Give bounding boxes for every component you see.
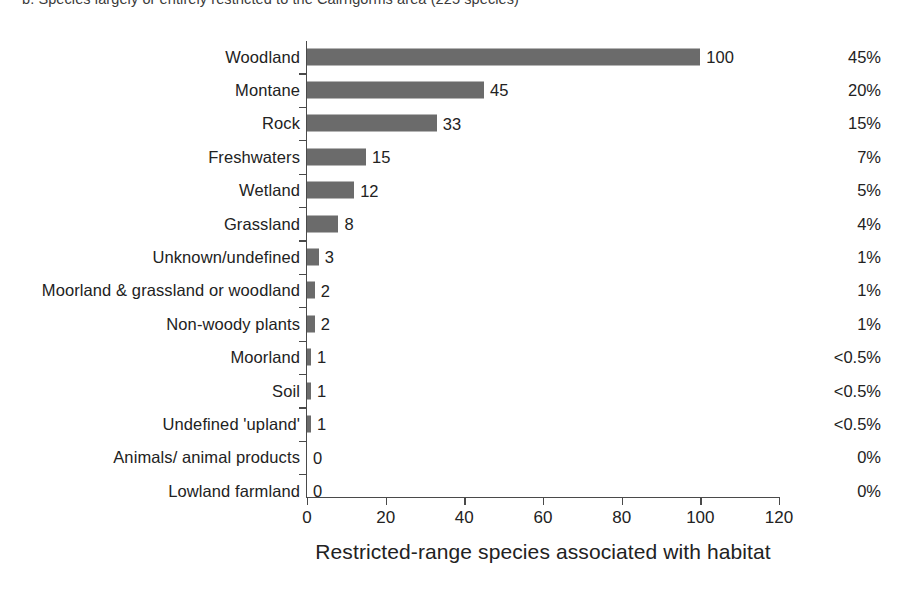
horizontal-bar-chart: Woodland10045%Montane4520%Rock3315%Fresh… — [0, 0, 902, 600]
y-axis-tick — [299, 140, 306, 141]
percent-label: 45% — [0, 47, 881, 66]
chart-bar-row: Freshwaters157% — [0, 140, 902, 173]
y-axis-tick — [299, 441, 306, 442]
y-axis-line — [306, 41, 307, 498]
chart-bar-row: Moorland1<0.5% — [0, 341, 902, 374]
chart-bar-row: Soil1<0.5% — [0, 374, 902, 407]
percent-label: 1% — [0, 281, 881, 300]
y-axis-tick — [299, 174, 306, 175]
y-axis-tick — [299, 240, 306, 241]
y-axis-tick — [299, 474, 306, 475]
chart-bar-row: Woodland10045% — [0, 40, 902, 73]
percent-label: 4% — [0, 214, 881, 233]
x-axis-tick-label: 40 — [455, 508, 474, 528]
percent-label: 0% — [0, 448, 881, 467]
y-axis-tick — [299, 107, 306, 108]
y-axis-tick — [299, 374, 306, 375]
y-axis-tick — [299, 274, 306, 275]
chart-bar-row: Non-woody plants21% — [0, 307, 902, 340]
x-axis-tick-label: 60 — [534, 508, 553, 528]
x-axis-title: Restricted-range species associated with… — [306, 540, 780, 564]
y-axis-tick — [299, 73, 306, 74]
chart-bar-row: Lowland farmland00% — [0, 474, 902, 507]
x-axis-tick — [386, 498, 387, 505]
x-axis-tick — [543, 498, 544, 505]
percent-label: <0.5% — [0, 414, 881, 433]
x-axis-tick-label: 100 — [686, 508, 714, 528]
x-axis-tick — [464, 498, 465, 505]
x-axis-tick — [622, 498, 623, 505]
x-axis-tick-label: 20 — [376, 508, 395, 528]
percent-label: 1% — [0, 314, 881, 333]
percent-label: 5% — [0, 181, 881, 200]
chart-bar-row: Moorland & grassland or woodland21% — [0, 274, 902, 307]
chart-plot-area: Woodland10045%Montane4520%Rock3315%Fresh… — [0, 40, 902, 507]
y-axis-tick — [299, 307, 306, 308]
percent-label: 20% — [0, 81, 881, 100]
y-axis-tick — [299, 207, 306, 208]
chart-bar-row: Rock3315% — [0, 107, 902, 140]
chart-bar-row: Unknown/undefined31% — [0, 240, 902, 273]
chart-bar-row: Undefined 'upland'1<0.5% — [0, 407, 902, 440]
x-axis-tick-label: 120 — [765, 508, 793, 528]
percent-label: 1% — [0, 248, 881, 267]
chart-bar-row: Wetland125% — [0, 174, 902, 207]
percent-label: <0.5% — [0, 348, 881, 367]
x-axis-tick — [700, 498, 701, 505]
x-axis-tick — [307, 498, 308, 505]
x-axis-tick — [779, 498, 780, 505]
x-axis-tick-label: 0 — [302, 508, 311, 528]
x-axis-tick-label: 80 — [612, 508, 631, 528]
chart-bar-row: Animals/ animal products00% — [0, 441, 902, 474]
y-axis-tick — [299, 341, 306, 342]
percent-label: 7% — [0, 147, 881, 166]
chart-bar-row: Grassland84% — [0, 207, 902, 240]
percent-label: 15% — [0, 114, 881, 133]
percent-label: <0.5% — [0, 381, 881, 400]
y-axis-tick — [299, 407, 306, 408]
chart-bar-row: Montane4520% — [0, 73, 902, 106]
